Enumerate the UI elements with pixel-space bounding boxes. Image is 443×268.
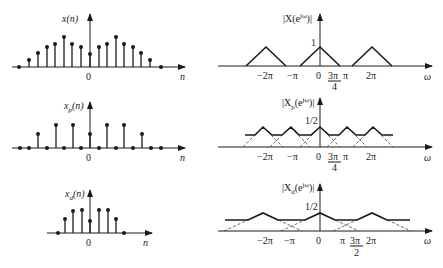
origin-label: 0 <box>86 237 91 248</box>
svg-text:2π: 2π <box>366 70 376 81</box>
svg-text:π: π <box>343 151 348 162</box>
aliased-spectrum <box>245 127 393 135</box>
svg-text:−π: −π <box>287 70 298 81</box>
tick-labels: −2π −π 0 π 2π 3π 4 <box>257 70 376 92</box>
triangle-left <box>246 47 286 66</box>
panel-X-spectrum: |X(ejω)| 1 −2π −π 0 π 2π 3π 4 ω <box>218 12 432 92</box>
svg-text:π: π <box>340 235 345 246</box>
peak-label: 1 <box>311 37 316 48</box>
panel-xp-n: xp(n) 0 n <box>12 100 185 163</box>
svg-text:2: 2 <box>354 247 359 258</box>
panel-Xp-spectrum: |Xp(ejω)| 1/2 −2π −π 0 π 2π 3π 4 ω <box>218 96 432 173</box>
svg-text:0: 0 <box>316 151 321 162</box>
x-axis-label: ω <box>424 71 431 82</box>
svg-text:−2π: −2π <box>257 70 273 81</box>
x-axis-label: ω <box>424 152 431 163</box>
svg-text:−2π: −2π <box>257 235 273 246</box>
y-axis-label: |Xp(ejω)| <box>282 96 314 111</box>
peak-label: 1/2 <box>305 115 318 126</box>
aliased-spectrum <box>225 213 410 220</box>
svg-text:0: 0 <box>316 70 321 81</box>
triangle-right <box>352 47 392 66</box>
panel-x-n: x(n) 0 n <box>12 13 185 82</box>
y-axis-label: |Xd(ejω)| <box>282 181 314 196</box>
aliased-dashed-triangles <box>224 213 411 231</box>
svg-text:3π: 3π <box>350 235 360 246</box>
y-axis-label: xd(n) <box>64 188 85 202</box>
y-axis-label: x(n) <box>61 13 79 25</box>
svg-text:−2π: −2π <box>257 151 273 162</box>
svg-text:−π: −π <box>284 235 295 246</box>
peak-label: 1/2 <box>305 201 318 212</box>
svg-text:2π: 2π <box>366 151 376 162</box>
x-axis-label: n <box>143 237 148 248</box>
tick-labels: −2π −π 0 π 2π 3π 2 <box>257 235 376 258</box>
svg-text:2π: 2π <box>366 235 376 246</box>
signal-diagram: x(n) 0 n |X(ejω)| 1 <box>0 0 443 268</box>
y-axis-label: xp(n) <box>63 100 84 114</box>
x-axis-label: n <box>180 152 185 163</box>
x-axis-label: ω <box>424 235 431 246</box>
svg-text:4: 4 <box>332 81 337 92</box>
svg-text:3π: 3π <box>328 151 338 162</box>
svg-text:−π: −π <box>287 151 298 162</box>
svg-text:3π: 3π <box>328 70 338 81</box>
panel-Xd-spectrum: |Xd(ejω)| 1/2 −2π −π 0 π 2π 3π 2 ω <box>218 181 432 258</box>
tick-labels: −2π −π 0 π 2π 3π 4 <box>257 151 376 173</box>
svg-text:0: 0 <box>316 235 321 246</box>
svg-text:π: π <box>343 70 348 81</box>
origin-label: 0 <box>86 152 91 163</box>
x-axis-label: n <box>180 71 185 82</box>
y-axis-label: |X(ejω)| <box>283 12 312 25</box>
panel-xd-n: xd(n) 0 n <box>47 188 152 248</box>
origin-label: 0 <box>86 71 91 82</box>
svg-text:4: 4 <box>332 162 337 173</box>
stems <box>56 208 126 235</box>
